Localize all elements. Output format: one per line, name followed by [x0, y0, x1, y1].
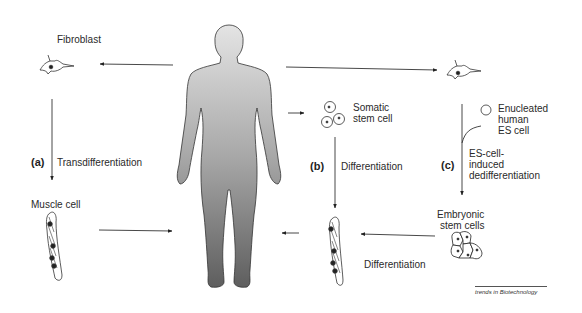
muscle-cell-b-icon — [329, 217, 343, 285]
transdifferentiation-label: Transdifferentiation — [57, 157, 142, 168]
differentiation-c-label: Differentiation — [364, 259, 426, 270]
embryonic-stem-cells-icon — [451, 232, 482, 259]
human-body-icon — [177, 25, 281, 287]
enucleated-label-line3: ES cell — [498, 125, 529, 136]
fibroblast-label: Fibroblast — [57, 34, 101, 45]
embryonic-stem-cells-label-line1: Embryonic — [437, 209, 484, 220]
diagram-canvas: Fibroblast (a) Transdifferentiation Musc… — [0, 0, 582, 313]
fibroblast-right-cell-icon — [447, 60, 481, 79]
pathway-tag-b: (b) — [310, 160, 324, 172]
arrow-body-to-fibroblast-right — [286, 67, 437, 70]
enucleated-label-line1: Enucleated — [498, 103, 548, 114]
arrow-differentiation-c — [361, 234, 435, 236]
arrow-body-to-fibroblast — [100, 64, 173, 65]
differentiation-b-label: Differentiation — [341, 161, 403, 172]
dedifferentiation-label-line2: induced — [469, 159, 504, 170]
somatic-stem-cell-label-line2: stem cell — [353, 113, 392, 124]
somatic-stem-cells-icon — [322, 102, 345, 128]
figure-credit: trends in Biotechnology — [475, 286, 547, 295]
dedifferentiation-label-line1: ES-cell- — [469, 148, 504, 159]
muscle-cell-label: Muscle cell — [31, 199, 80, 210]
enucleated-fusion-curve — [462, 126, 481, 143]
dedifferentiation-label-line3: dedifferentiation — [469, 170, 540, 181]
somatic-stem-cell-label-line1: Somatic — [353, 102, 389, 113]
muscle-cell-icon — [46, 212, 62, 280]
embryonic-stem-cells-label-line2: stem cells — [440, 220, 484, 231]
fibroblast-cell-icon — [40, 55, 74, 74]
pathway-tag-c: (c) — [441, 159, 454, 171]
enucleated-es-cell-icon — [481, 105, 491, 115]
pathway-tag-a: (a) — [31, 156, 44, 168]
arrow-muscle-to-body-a — [99, 230, 172, 231]
enucleated-label-line2: human — [498, 114, 529, 125]
